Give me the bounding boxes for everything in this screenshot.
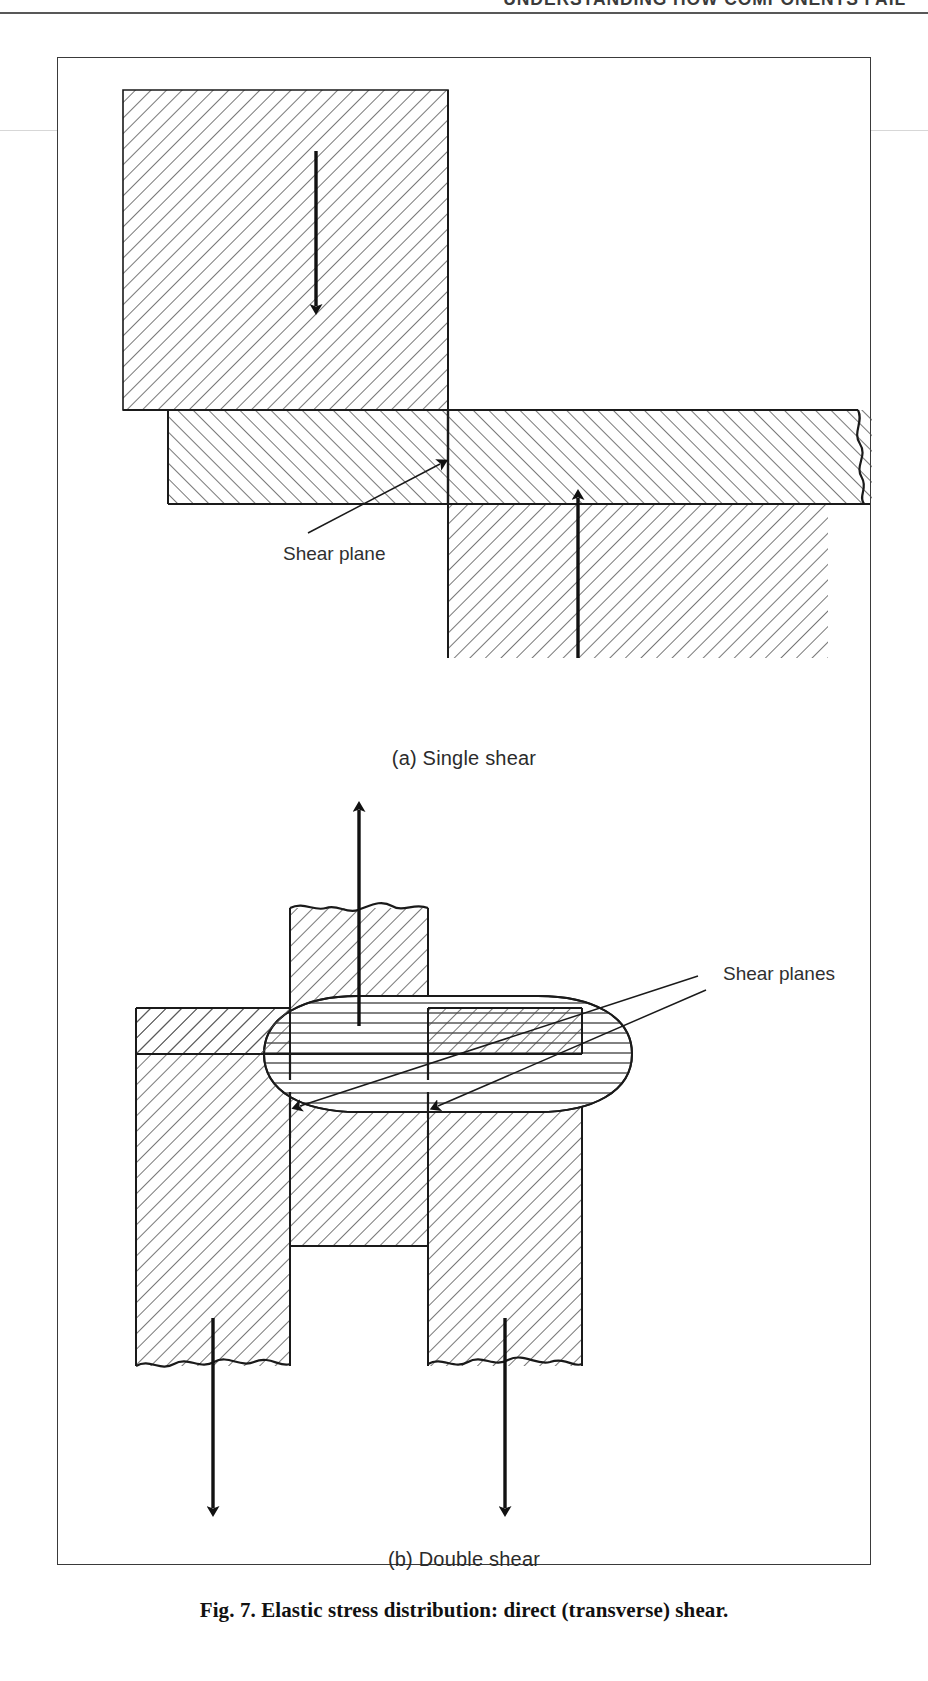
panel-b-caption: (b) Double shear [58, 1548, 870, 1571]
shear-plane-label: Shear plane [283, 543, 385, 565]
figure-frame: Shear plane (a) Single shear [57, 57, 871, 1565]
shear-planes-label: Shear planes [723, 963, 835, 985]
lower-member-a [448, 504, 828, 658]
running-head: UNDERSTANDING HOW COMPONENTS FAIL [0, 0, 928, 30]
running-head-text: UNDERSTANDING HOW COMPONENTS FAIL [503, 0, 906, 10]
upper-member-a [123, 90, 448, 410]
panel-b-double-shear-drawing [58, 758, 872, 1548]
panel-a-single-shear-drawing [58, 58, 872, 678]
running-head-rule [0, 12, 928, 14]
figure-caption: Fig. 7. Elastic stress distribution: dir… [58, 1598, 870, 1623]
middle-strap-a [168, 410, 872, 504]
